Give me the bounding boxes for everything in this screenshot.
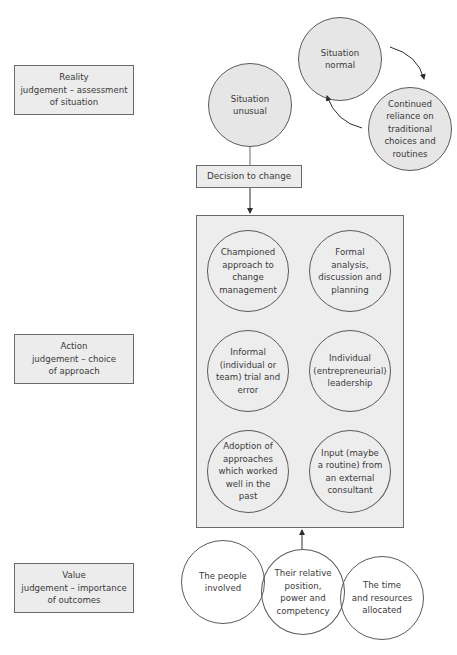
factor-time-resources: The time and resources allocated bbox=[340, 556, 424, 640]
approach-formal-analysis: Formal analysis, discussion and planning bbox=[309, 230, 391, 312]
value-judgement-label: Value judgement – importance of outcomes bbox=[14, 563, 134, 613]
continued-reliance-node: Continued reliance on traditional choice… bbox=[368, 87, 452, 171]
factor-relative-position: Their relative position, power and compe… bbox=[261, 549, 345, 635]
decision-to-change-box: Decision to change bbox=[196, 165, 302, 188]
reality-judgement-label: Reality judgement – assessment of situat… bbox=[14, 65, 134, 115]
change-management-diagram: Reality judgement – assessment of situat… bbox=[0, 0, 457, 655]
situation-normal-node: Situation normal bbox=[298, 17, 382, 101]
factor-people-involved: The people involved bbox=[181, 540, 265, 624]
approach-informal-trial: Informal (individual or team) trial and … bbox=[207, 330, 289, 412]
approach-external-consultant: Input (maybe a routine) from an external… bbox=[309, 430, 391, 513]
approach-past-adoption: Adoption of approaches which worked well… bbox=[207, 430, 289, 513]
approach-individual-leadership: Individual (entrepreneurial) leadership bbox=[309, 330, 391, 412]
situation-unusual-node: Situation unusual bbox=[208, 63, 292, 147]
approach-championed: Championed approach to change management bbox=[207, 230, 289, 312]
curved-arrow-icon bbox=[390, 47, 424, 79]
action-judgement-label: Action judgement – choice of approach bbox=[14, 334, 134, 384]
curved-arrow-icon bbox=[327, 96, 362, 128]
